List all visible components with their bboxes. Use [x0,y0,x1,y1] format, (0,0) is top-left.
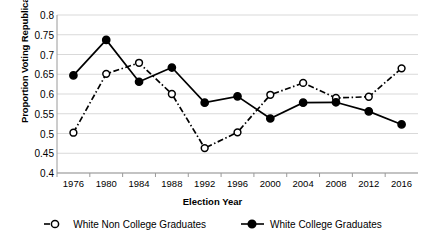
x-tick-label: 2004 [293,178,314,189]
plot-area [0,0,425,252]
data-point[interactable] [234,129,241,136]
x-tick-label: 2012 [358,178,379,189]
data-point[interactable] [135,78,142,85]
data-point[interactable] [70,129,77,136]
legend-label-college: White College Graduates [270,219,382,230]
legend-marker-filled-circle-icon [240,218,266,230]
x-tick-label: 1984 [128,178,149,189]
data-point[interactable] [365,93,372,100]
data-point[interactable] [70,72,77,79]
x-tick-label: 1996 [227,178,248,189]
x-tick-label: 1988 [161,178,182,189]
data-point[interactable] [168,91,175,98]
legend-label-non-college: White Non College Graduates [73,219,206,230]
legend-item-college[interactable]: White College Graduates [240,218,382,230]
chart-legend: White Non College Graduates White Colleg… [0,218,425,230]
legend-item-non-college[interactable]: White Non College Graduates [43,218,206,230]
x-tick-label: 2000 [260,178,281,189]
data-point[interactable] [168,64,175,71]
data-point[interactable] [300,80,307,87]
x-tick-label: 1992 [194,178,215,189]
data-point[interactable] [365,108,372,115]
x-tick-label: 2016 [391,178,412,189]
data-point[interactable] [267,115,274,122]
data-point[interactable] [267,91,274,98]
series-line-college [73,40,401,125]
x-tick-label: 1980 [96,178,117,189]
data-point[interactable] [103,70,110,77]
data-point[interactable] [398,121,405,128]
data-point[interactable] [103,36,110,43]
data-point[interactable] [201,99,208,106]
data-point[interactable] [398,65,405,72]
chart-container: Proportion Voting Republican 0.40.450.50… [0,0,425,252]
x-axis-title: Election Year [0,196,425,207]
x-tick-label: 1976 [63,178,84,189]
data-point[interactable] [300,99,307,106]
data-point[interactable] [201,145,208,152]
legend-marker-open-circle-icon [43,218,69,230]
x-axis-tick-marks [57,173,385,177]
data-point[interactable] [332,99,339,106]
data-point[interactable] [234,93,241,100]
data-point[interactable] [136,59,143,66]
x-tick-label: 2008 [325,178,346,189]
